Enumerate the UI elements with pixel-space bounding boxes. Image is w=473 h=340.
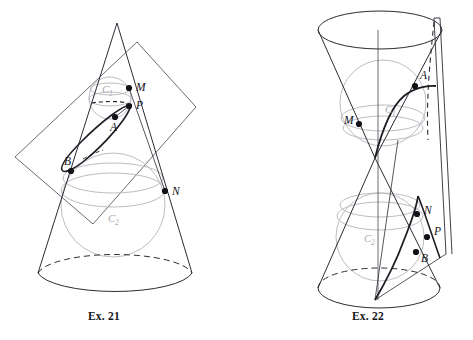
point-M-ex22 (356, 121, 362, 127)
label-N-ex22: N (423, 204, 433, 216)
point-N-ex22 (414, 211, 420, 217)
figure-page: M P A B N C 1 C 2 (0, 0, 473, 340)
svg-text:1: 1 (392, 109, 396, 118)
svg-text:2: 2 (371, 238, 375, 247)
label-M-ex22: M (343, 114, 355, 126)
label-A-ex22: A (419, 69, 428, 81)
label-B-ex22: B (421, 252, 428, 264)
diagram-ex22: A M N P B C 1 C 2 (0, 0, 473, 340)
point-P-ex22 (424, 234, 430, 240)
label-c2-ex22: C 2 (364, 232, 375, 247)
label-P-ex22: P (433, 225, 441, 237)
point-A-ex22 (412, 83, 418, 89)
point-B-ex22 (413, 249, 419, 255)
caption-ex22: Ex. 22 (352, 310, 384, 322)
caption-ex21: Ex. 21 (88, 310, 120, 322)
